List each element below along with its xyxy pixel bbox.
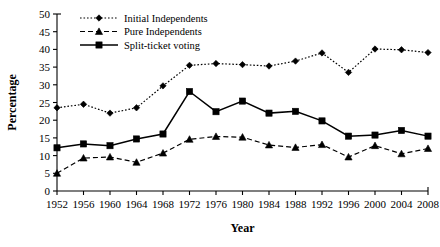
- x-axis-tick-label: 1988: [285, 198, 308, 210]
- data-point: [239, 98, 245, 104]
- data-point: [292, 58, 298, 64]
- y-axis-tick-label: 35: [39, 61, 51, 73]
- x-axis-tick-label: 1968: [152, 198, 175, 210]
- data-point: [424, 145, 431, 152]
- y-axis-tick-label: 25: [39, 97, 51, 109]
- data-point: [266, 63, 272, 69]
- data-point: [106, 153, 113, 160]
- x-axis-tick-label: 1972: [179, 198, 201, 210]
- data-point: [372, 46, 378, 52]
- y-axis-tick-label: 0: [45, 185, 51, 197]
- x-axis-tick-label: 1984: [258, 198, 281, 210]
- x-axis-tick-label: 1960: [99, 198, 122, 210]
- legend-item: Initial Independents: [80, 13, 208, 24]
- data-point: [398, 127, 404, 133]
- x-axis-tick-label: 1956: [73, 198, 96, 210]
- x-axis-tick-label: 1980: [232, 198, 255, 210]
- legend-item: Pure Independents: [80, 26, 202, 37]
- data-point: [80, 141, 86, 147]
- x-axis-tick-label: 1952: [46, 198, 68, 210]
- series-1: [54, 46, 431, 116]
- x-axis: 1952195619601964196819721976198019841988…: [46, 187, 440, 210]
- x-axis-tick-label: 2004: [391, 198, 414, 210]
- x-axis-title: Year: [231, 221, 256, 235]
- data-point: [319, 118, 325, 124]
- line-chart: 0510152025303540455019521956196019641968…: [0, 0, 440, 247]
- data-point: [425, 133, 431, 139]
- data-point: [54, 145, 60, 151]
- x-axis-tick-label: 1976: [205, 198, 228, 210]
- series-line: [57, 136, 428, 173]
- data-point: [425, 49, 431, 55]
- y-axis-tick-label: 40: [39, 43, 51, 55]
- x-axis-tick-label: 1996: [338, 198, 361, 210]
- data-point: [345, 153, 352, 160]
- x-axis-tick-label: 1964: [126, 198, 149, 210]
- legend-label: Pure Independents: [124, 26, 202, 37]
- y-axis-tick-label: 10: [39, 150, 51, 162]
- data-point: [372, 132, 378, 138]
- data-point: [239, 61, 245, 67]
- y-axis-tick-label: 45: [39, 26, 51, 38]
- data-point: [186, 88, 192, 94]
- data-point: [266, 110, 272, 116]
- y-axis-tick-label: 50: [39, 8, 51, 20]
- legend-label: Initial Independents: [124, 13, 208, 24]
- x-axis-tick-label: 1992: [311, 198, 333, 210]
- y-axis: 05101520253035404550: [39, 8, 61, 197]
- data-point: [398, 47, 404, 53]
- data-point: [371, 142, 378, 149]
- y-axis-tick-label: 15: [39, 132, 51, 144]
- data-point: [186, 62, 192, 68]
- chart-container: 0510152025303540455019521956196019641968…: [0, 0, 440, 247]
- data-point: [159, 150, 166, 157]
- data-point: [107, 110, 113, 116]
- legend-marker: [96, 42, 102, 48]
- data-point: [133, 136, 139, 142]
- legend: Initial IndependentsPure IndependentsSpl…: [80, 13, 208, 51]
- y-axis-tick-label: 20: [39, 114, 51, 126]
- legend-marker: [96, 15, 102, 21]
- legend-item: Split-ticket voting: [80, 40, 201, 51]
- data-point: [345, 133, 351, 139]
- data-point: [54, 105, 60, 111]
- data-point: [213, 60, 219, 66]
- y-axis-tick-label: 30: [39, 79, 51, 91]
- y-axis-title: Percentage: [5, 74, 19, 131]
- data-point: [213, 109, 219, 115]
- legend-label: Split-ticket voting: [124, 40, 201, 51]
- series-3: [54, 88, 431, 150]
- data-point: [292, 108, 298, 114]
- data-point: [160, 131, 166, 137]
- data-point: [107, 143, 113, 149]
- x-axis-tick-label: 2000: [364, 198, 387, 210]
- x-axis-tick-label: 2008: [417, 198, 440, 210]
- data-point: [80, 101, 86, 107]
- series-2: [53, 133, 431, 176]
- y-axis-tick-label: 5: [45, 167, 51, 179]
